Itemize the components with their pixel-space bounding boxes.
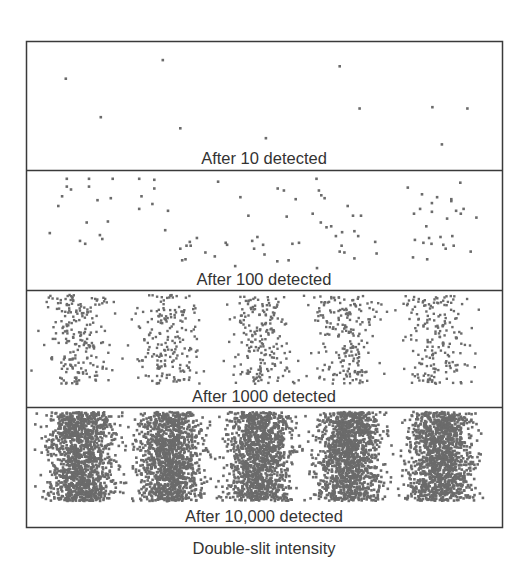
detection-dot: [65, 475, 68, 478]
detection-dot: [373, 495, 376, 498]
detection-dot: [328, 423, 331, 426]
detection-dot: [85, 495, 88, 498]
detection-dot: [470, 420, 473, 423]
figure-caption: Double-slit intensity: [192, 539, 336, 557]
detection-dot: [163, 430, 166, 433]
detection-dot: [377, 494, 380, 497]
detection-dot: [165, 420, 168, 423]
detection-dot: [457, 460, 460, 463]
detection-dot: [99, 497, 102, 500]
detection-dot: [187, 411, 190, 414]
detection-dot: [156, 296, 158, 298]
detection-dot: [357, 298, 359, 300]
detection-dot: [276, 462, 279, 465]
detection-dot: [355, 305, 357, 307]
detection-dot: [445, 304, 447, 306]
detection-dot: [163, 438, 166, 441]
detection-dot: [182, 369, 184, 371]
detection-dot: [86, 308, 88, 310]
detection-dot: [349, 340, 351, 342]
detection-dot: [164, 363, 166, 365]
detection-dot: [338, 354, 340, 356]
detection-dot: [252, 451, 255, 454]
detection-dot: [237, 412, 240, 415]
detection-dot: [455, 453, 458, 456]
detection-dot: [293, 382, 295, 384]
detection-dot: [57, 205, 60, 208]
detection-dot: [443, 470, 446, 473]
detection-dot: [418, 467, 421, 470]
detection-dot: [357, 357, 359, 359]
detection-dot: [286, 493, 289, 496]
detection-dot: [193, 312, 195, 314]
detection-dot: [290, 437, 293, 440]
detection-dot: [464, 420, 467, 423]
detection-dot: [55, 476, 58, 479]
detection-dot: [316, 267, 319, 270]
detection-dot: [325, 350, 327, 352]
detection-dot: [185, 484, 188, 487]
detection-dot: [414, 239, 417, 242]
detection-dot: [88, 488, 91, 491]
detection-dot: [77, 488, 80, 491]
detection-dot: [71, 500, 74, 503]
detection-dot: [273, 346, 275, 348]
detection-dot: [60, 475, 63, 478]
detection-dot: [322, 316, 324, 318]
detection-dot: [427, 462, 430, 465]
detection-dot: [45, 414, 48, 417]
detection-dot: [434, 445, 437, 448]
detection-dot: [36, 412, 39, 415]
detection-dot: [347, 370, 349, 372]
detection-dot: [57, 302, 59, 304]
detection-dot: [321, 486, 324, 489]
detection-dot: [180, 430, 183, 433]
detection-dot: [250, 426, 253, 429]
detection-dot: [193, 305, 195, 307]
detection-dot: [75, 383, 77, 385]
detection-dot: [150, 419, 153, 422]
detection-dot: [118, 468, 121, 471]
detection-dot: [332, 379, 334, 381]
detection-dot: [194, 440, 197, 443]
detection-dot: [144, 433, 147, 436]
detection-dot: [473, 463, 476, 466]
detection-dot: [459, 433, 462, 436]
detection-dot: [451, 326, 453, 328]
detection-dot: [273, 352, 275, 354]
detection-dot: [419, 480, 422, 483]
detection-dot: [339, 372, 341, 374]
detection-dot: [390, 476, 393, 479]
detection-dot: [94, 471, 97, 474]
detection-dot: [343, 378, 345, 380]
detection-dot: [274, 307, 276, 309]
detection-dot: [447, 440, 450, 443]
detection-dot: [164, 359, 166, 361]
detection-dot: [67, 295, 69, 297]
detection-dot: [348, 363, 350, 365]
detection-dot: [272, 311, 274, 313]
detection-dot: [425, 473, 428, 476]
detection-dot: [353, 426, 356, 429]
detection-dot: [181, 422, 184, 425]
detection-dot: [413, 296, 415, 298]
detection-dot: [66, 340, 68, 342]
detection-dot: [269, 480, 272, 483]
detection-dot: [330, 225, 333, 228]
detection-dot: [178, 423, 181, 426]
detection-dot: [319, 376, 321, 378]
detection-dot: [150, 434, 153, 437]
detection-dot: [460, 212, 463, 215]
detection-dot: [136, 358, 138, 360]
detection-dot: [468, 412, 471, 415]
detection-dot: [59, 487, 62, 490]
detection-dot: [159, 379, 161, 381]
detection-dot: [287, 259, 290, 262]
detection-dot: [242, 453, 245, 456]
detection-dot: [356, 320, 358, 322]
detection-dot: [155, 336, 157, 338]
detection-dot: [99, 462, 102, 465]
detection-dot: [139, 440, 142, 443]
detection-dot: [247, 314, 249, 316]
detection-dot: [415, 330, 417, 332]
